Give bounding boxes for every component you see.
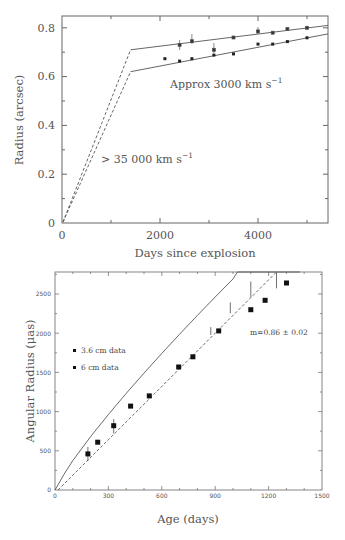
top-xtick-4000: 4000 bbox=[244, 229, 272, 242]
bottom-xtick-1200: 1200 bbox=[261, 492, 276, 499]
upper-slow-fit bbox=[131, 25, 328, 49]
bottom-xtick-600: 600 bbox=[156, 492, 168, 499]
legend-marker-6cm bbox=[73, 366, 76, 369]
bottom-ytick-1500: 1500 bbox=[36, 369, 51, 376]
bottom-xtick-900: 900 bbox=[209, 492, 221, 499]
bottom-x-axis-title: Age (days) bbox=[156, 512, 219, 526]
top-y-axis-title: Radius (arcsec) bbox=[12, 75, 26, 166]
top-y-ticks bbox=[62, 28, 328, 199]
bottom-ytick-500: 500 bbox=[40, 447, 52, 454]
top-ytick-0.4: 0.4 bbox=[38, 119, 56, 132]
top-chart: 0 2000 4000 0 0.2 0.4 0.6 0.8 Days since… bbox=[12, 16, 328, 260]
bottom-chart: 0 300 600 900 1200 1500 0 500 1000 1500 … bbox=[23, 272, 330, 526]
lower-slow-fit bbox=[131, 34, 328, 72]
bottom-xtick-300: 300 bbox=[103, 492, 115, 499]
upper-fast-fit-dashed bbox=[63, 50, 131, 222]
legend-label-6cm: 6 cm data bbox=[81, 363, 119, 372]
bottom-ytick-0: 0 bbox=[47, 486, 51, 493]
bottom-x-ticks bbox=[73, 272, 304, 490]
top-plot-frame bbox=[62, 16, 328, 223]
lower-fast-fit-dashed bbox=[63, 72, 131, 222]
top-lower-data bbox=[163, 36, 308, 62]
top-xtick-2000: 2000 bbox=[146, 229, 174, 242]
bottom-ytick-1000: 1000 bbox=[36, 408, 51, 415]
annotation-slow-velocity: Approx 3000 km s−1 bbox=[169, 76, 282, 91]
top-ytick-0.8: 0.8 bbox=[38, 22, 56, 35]
top-ytick-0.6: 0.6 bbox=[38, 70, 56, 83]
bottom-xtick-0: 0 bbox=[53, 492, 57, 499]
top-x-axis-title: Days since explosion bbox=[134, 246, 256, 260]
bottom-fit-lines bbox=[55, 272, 300, 490]
top-x-ticks bbox=[111, 16, 307, 223]
legend-marker-3.6cm bbox=[73, 349, 76, 352]
power-law-fit-solid bbox=[55, 272, 300, 490]
linear-fit-dashed bbox=[58, 272, 277, 490]
annotation-fast-velocity: > 35 000 km s−1 bbox=[101, 151, 193, 166]
figure: 0 2000 4000 0 0.2 0.4 0.6 0.8 Days since… bbox=[0, 0, 345, 540]
top-fit-lines bbox=[63, 25, 328, 222]
legend-label-3.6cm: 3.6 cm data bbox=[81, 346, 126, 355]
bottom-xtick-1500: 1500 bbox=[314, 492, 329, 499]
bottom-ytick-2000: 2000 bbox=[36, 330, 51, 337]
top-ytick-0: 0 bbox=[48, 217, 55, 230]
bottom-legend: 3.6 cm data 6 cm data bbox=[73, 346, 126, 372]
top-upper-data bbox=[178, 26, 308, 53]
bottom-y-ticks bbox=[55, 274, 322, 470]
top-ytick-0.2: 0.2 bbox=[38, 168, 56, 181]
bottom-plot-frame bbox=[55, 272, 322, 490]
top-xtick-0: 0 bbox=[59, 229, 66, 242]
bottom-ytick-2500: 2500 bbox=[36, 290, 51, 297]
bottom-y-axis-title: Angular Radius (μas) bbox=[23, 319, 37, 443]
slope-annotation: m=0.86 ± 0.02 bbox=[250, 328, 308, 337]
